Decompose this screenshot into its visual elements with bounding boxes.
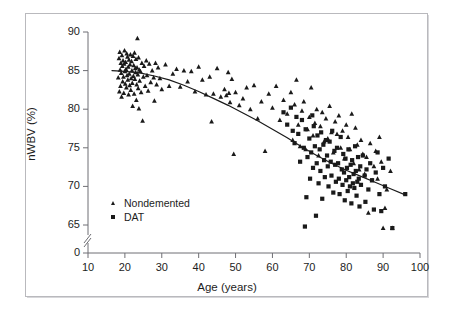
data-point — [126, 92, 131, 97]
legend: Nondemented DAT — [106, 196, 190, 224]
data-point — [351, 181, 355, 185]
data-point — [294, 77, 299, 82]
data-point — [312, 124, 316, 128]
data-point — [357, 204, 361, 208]
y-tick-label-90: 90 — [44, 26, 80, 37]
data-point — [296, 122, 301, 127]
data-point — [226, 70, 231, 75]
data-point — [233, 90, 238, 95]
x-tick-label-90: 90 — [365, 262, 401, 273]
data-point — [333, 119, 338, 124]
data-point — [281, 97, 286, 102]
data-point — [353, 125, 358, 130]
data-point — [321, 143, 325, 147]
data-point — [356, 155, 360, 159]
data-point — [117, 50, 122, 55]
data-point — [153, 60, 158, 64]
data-point — [291, 129, 295, 133]
data-point — [339, 135, 343, 139]
data-point — [318, 147, 322, 151]
data-point — [196, 64, 201, 69]
legend-label-dat: DAT — [124, 212, 144, 223]
data-point — [274, 84, 279, 89]
x-tick-label-30: 30 — [144, 262, 180, 273]
data-point — [296, 132, 300, 136]
y-tick-label-0: 0 — [44, 247, 80, 258]
trend-curve-group — [112, 71, 405, 195]
data-point — [182, 68, 187, 73]
data-point — [174, 67, 179, 72]
data-point — [281, 110, 285, 114]
data-point — [366, 210, 371, 215]
square-marker-icon — [106, 215, 120, 219]
y-tick-label-65: 65 — [44, 219, 80, 230]
data-point — [141, 74, 146, 79]
data-point — [341, 152, 345, 156]
data-point — [136, 55, 141, 60]
data-point — [313, 144, 317, 148]
data-point — [363, 200, 367, 204]
data-point — [381, 166, 385, 170]
data-point — [289, 90, 294, 95]
data-point — [325, 153, 329, 157]
data-point — [364, 167, 368, 171]
data-point — [361, 153, 365, 157]
data-point — [300, 118, 304, 122]
data-point — [388, 168, 393, 173]
data-point — [315, 161, 319, 165]
data-point — [298, 160, 302, 164]
legend-item-dat: DAT — [106, 210, 190, 224]
data-point — [137, 78, 142, 83]
data-point — [144, 58, 149, 63]
data-point — [353, 144, 357, 148]
data-point — [340, 128, 345, 133]
data-point — [350, 158, 354, 162]
data-point — [300, 108, 305, 113]
x-tick-label-70: 70 — [291, 262, 327, 273]
y-tick-label-70: 70 — [44, 180, 80, 191]
data-point — [336, 161, 340, 165]
data-point — [337, 177, 341, 181]
data-point — [347, 175, 351, 179]
data-point — [375, 150, 379, 154]
data-point — [130, 104, 135, 109]
data-point — [346, 189, 350, 193]
data-point — [241, 96, 246, 101]
data-point — [330, 129, 334, 133]
data-point — [358, 164, 362, 168]
data-point — [227, 90, 232, 95]
data-point — [139, 60, 144, 64]
data-point — [134, 97, 139, 102]
x-tick-label-80: 80 — [328, 262, 364, 273]
data-point — [244, 85, 249, 90]
legend-item-nondemented: Nondemented — [106, 196, 190, 210]
data-point — [324, 138, 328, 142]
data-point — [315, 133, 319, 137]
data-point — [121, 74, 126, 79]
data-point — [354, 194, 358, 198]
data-point — [132, 50, 137, 55]
data-point — [120, 79, 125, 84]
y-tick-label-75: 75 — [44, 142, 80, 153]
data-point — [119, 94, 124, 99]
x-tick-label-40: 40 — [181, 262, 217, 273]
data-point — [209, 119, 214, 124]
data-point — [309, 85, 314, 90]
data-point — [231, 151, 236, 156]
data-point — [304, 127, 308, 131]
data-point — [337, 192, 341, 196]
data-point — [387, 157, 391, 161]
data-point — [379, 159, 384, 164]
data-point — [318, 124, 323, 129]
data-point — [303, 224, 307, 228]
x-tick-label-100: 100 — [402, 262, 438, 273]
data-point — [319, 130, 323, 134]
data-point — [320, 197, 324, 201]
data-point — [316, 181, 320, 185]
x-tick-label-60: 60 — [254, 262, 290, 273]
data-point — [346, 147, 350, 151]
data-point — [375, 176, 380, 181]
legend-label-nondemented: Nondemented — [124, 198, 190, 209]
data-point — [326, 164, 330, 168]
x-tick-label-20: 20 — [107, 262, 143, 273]
